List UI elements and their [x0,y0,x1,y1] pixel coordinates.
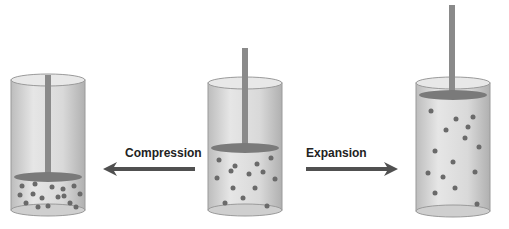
piston [419,90,487,100]
expansion-label: Expansion [306,146,367,160]
cylinder-initial [205,48,285,220]
cylinder-expanded [413,5,493,220]
cylinder-compressed [8,70,88,220]
expansion-arrow-icon [306,162,398,176]
piston [211,143,279,153]
piston-rod [242,48,248,148]
compression-label: Compression [125,146,202,160]
compression-arrow-icon [103,162,195,176]
piston [14,172,82,182]
piston-rod [449,5,455,95]
piston-rod [45,75,51,177]
